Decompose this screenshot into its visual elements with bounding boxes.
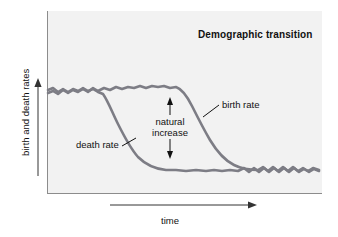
birth-rate-leader-line — [203, 105, 219, 117]
death-rate-label: death rate — [76, 140, 119, 151]
chart-title: Demographic transition — [198, 29, 312, 40]
x-axis-arrow — [110, 201, 257, 208]
natural-increase-down-arrow — [167, 139, 173, 159]
natural-increase-line-2: increase — [143, 128, 197, 139]
y-axis-label: birth and death rates — [21, 49, 32, 175]
natural-increase-label: natural increase — [143, 117, 197, 138]
y-axis-arrow — [34, 78, 41, 176]
natural-increase-up-arrow — [167, 97, 173, 115]
x-axis-label: time — [161, 216, 179, 227]
birth-rate-label: birth rate — [222, 100, 260, 111]
demographic-transition-figure: Demographic transition birth rate death … — [0, 0, 338, 237]
